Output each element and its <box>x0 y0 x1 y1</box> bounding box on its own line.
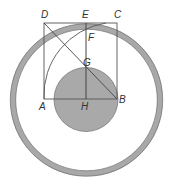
label-a: A <box>38 101 46 112</box>
label-f: F <box>88 32 95 43</box>
label-g: G <box>83 57 91 68</box>
label-b: B <box>119 94 126 105</box>
label-c: C <box>114 9 122 20</box>
geometry-diagram: D E C F G A H B <box>0 0 169 186</box>
label-h: H <box>81 101 89 112</box>
label-e: E <box>82 9 89 20</box>
label-d: D <box>41 9 48 20</box>
